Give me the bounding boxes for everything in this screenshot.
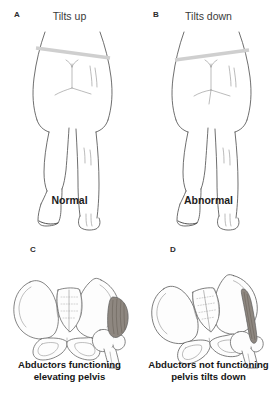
panel-d-letter: D [170,246,176,254]
panel-c: C [0,240,139,400]
panel-d-pelvis-drawing [139,256,278,368]
panel-d-caption-line2: pelvis tilts down [139,371,278,383]
panel-c-caption-line1: Abductors functioning [0,359,139,371]
panel-c-caption: Abductors functioning elevating pelvis [0,359,139,382]
panel-a-header: Tilts up [0,11,139,22]
panel-b-caption: Abnormal [139,195,278,206]
panel-c-caption-line2: elevating pelvis [0,371,139,383]
panel-d-caption-line1: Abductors not functioning [139,359,278,371]
panel-d: D [139,240,278,400]
panel-a: A Tilts up [0,0,139,240]
panel-b-header: Tilts down [139,11,278,22]
panel-a-caption: Normal [0,195,139,206]
panel-c-pelvis-drawing [0,256,139,368]
trendelenburg-figure: A Tilts up [0,0,278,400]
panel-d-caption: Abductors not functioning pelvis tilts d… [139,359,278,382]
panel-b: B Tilts down [139,0,278,240]
panel-c-letter: C [30,246,36,254]
